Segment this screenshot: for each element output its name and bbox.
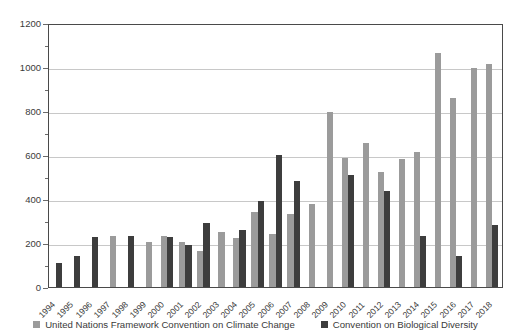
bar <box>363 143 369 287</box>
bar-group <box>339 25 357 287</box>
legend-item[interactable]: United Nations Framework Convention on C… <box>33 320 295 330</box>
bar-group <box>68 25 86 287</box>
bar <box>258 201 264 287</box>
bar <box>327 112 333 287</box>
bar-group <box>194 25 212 287</box>
legend-swatch-icon <box>33 321 40 328</box>
bar <box>203 223 209 287</box>
bar-group <box>104 25 122 287</box>
bar-group <box>411 25 429 287</box>
bar-group <box>429 25 447 287</box>
bar-group <box>249 25 267 287</box>
bar <box>128 236 134 287</box>
bar <box>146 242 152 287</box>
y-axis-tick-label: 1200 <box>20 19 41 29</box>
bar-group <box>285 25 303 287</box>
bar <box>110 236 116 287</box>
legend-swatch-icon <box>321 321 328 328</box>
y-axis-tick-label: 600 <box>25 151 41 161</box>
bar-group <box>465 25 483 287</box>
bar-group <box>158 25 176 287</box>
bar-group <box>86 25 104 287</box>
bar <box>384 191 390 287</box>
bar-group <box>321 25 339 287</box>
bar <box>294 181 300 287</box>
bar-group <box>230 25 248 287</box>
bar-group <box>393 25 411 287</box>
bar-group <box>375 25 393 287</box>
bar <box>435 53 441 287</box>
bar <box>185 245 191 287</box>
bar <box>471 68 477 287</box>
y-axis-labels: 020040060080010001200 <box>0 0 48 292</box>
bar <box>74 256 80 287</box>
bar-group <box>447 25 465 287</box>
y-axis-tick-label: 400 <box>25 195 41 205</box>
bar-group <box>267 25 285 287</box>
bar-group <box>303 25 321 287</box>
legend-item[interactable]: Convention on Biological Diversity <box>321 320 478 330</box>
bar <box>492 225 498 287</box>
plot-area <box>48 24 503 288</box>
y-axis-tick-label: 0 <box>36 283 41 293</box>
bar <box>218 232 224 287</box>
plot-wrapper: 020040060080010001200 199419951996199719… <box>0 0 511 292</box>
bar <box>167 237 173 287</box>
bar <box>399 159 405 287</box>
bar <box>456 256 462 287</box>
bar-group <box>212 25 230 287</box>
legend-label: Convention on Biological Diversity <box>333 320 478 330</box>
bar <box>309 204 315 287</box>
bar <box>56 263 62 287</box>
bar-group <box>122 25 140 287</box>
bar-group <box>483 25 501 287</box>
y-axis-tick-label: 800 <box>25 107 41 117</box>
legend-label: United Nations Framework Convention on C… <box>45 320 295 330</box>
bar <box>348 175 354 287</box>
bar-chart: 020040060080010001200 199419951996199719… <box>0 0 511 334</box>
bar-group <box>50 25 68 287</box>
bar <box>239 230 245 287</box>
bar-series-container <box>49 25 502 287</box>
bar <box>92 237 98 287</box>
bar-group <box>357 25 375 287</box>
bar-group <box>140 25 158 287</box>
y-axis-tick-label: 1000 <box>20 63 41 73</box>
bar <box>420 236 426 287</box>
bar <box>276 155 282 287</box>
chart-legend: United Nations Framework Convention on C… <box>0 315 511 334</box>
bar-group <box>176 25 194 287</box>
y-axis-tick-label: 200 <box>25 239 41 249</box>
